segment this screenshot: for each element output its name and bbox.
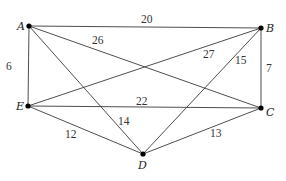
edge-weight-a-d: 14 xyxy=(118,115,130,127)
edge-weight-e-c: 22 xyxy=(136,95,148,107)
edge-weight-b-d: 15 xyxy=(235,54,247,66)
edge-d-c xyxy=(143,108,261,154)
edge-a-b xyxy=(29,26,261,28)
edge-weight-b-c: 7 xyxy=(266,62,272,74)
vertex-label-d: D xyxy=(137,159,147,172)
edge-weight-b-e: 27 xyxy=(203,48,215,60)
edge-a-e xyxy=(28,26,29,106)
edge-weight-e-d: 12 xyxy=(65,128,77,140)
edge-weight-d-c: 13 xyxy=(210,127,222,139)
edges-group xyxy=(28,26,261,154)
vertex-a xyxy=(26,23,31,28)
edge-b-d xyxy=(143,28,261,154)
vertices-group xyxy=(25,23,263,156)
edge-weight-a-c: 26 xyxy=(92,34,104,46)
vertex-e xyxy=(25,103,30,108)
vertex-label-e: E xyxy=(15,100,24,113)
vertex-c xyxy=(258,105,263,110)
edge-weight-a-b: 20 xyxy=(141,13,153,25)
vertex-d xyxy=(140,151,145,156)
vertex-label-a: A xyxy=(16,20,25,33)
vertex-label-b: B xyxy=(265,22,274,35)
vertex-label-c: C xyxy=(266,106,275,119)
weighted-graph-diagram: 206261472715221213 ABCDE xyxy=(0,0,286,181)
edge-weight-a-e: 6 xyxy=(6,60,12,72)
edge-e-d xyxy=(28,106,143,154)
edge-a-d xyxy=(29,26,143,154)
vertex-b xyxy=(258,25,263,30)
